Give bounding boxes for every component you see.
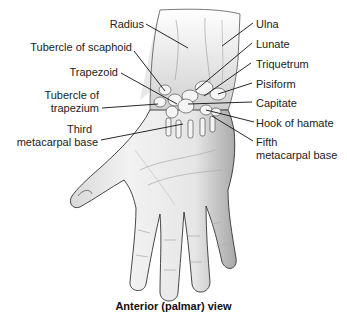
label-third-metacarpal-base-line1: Third (0, 123, 92, 135)
label-radius: Radius (78, 18, 144, 30)
label-hook-of-hamate: Hook of hamate (256, 117, 334, 129)
label-tubercle-of-trapezium-line2: trapezium (20, 102, 99, 114)
label-trapezoid: Trapezoid (40, 66, 118, 78)
label-lunate: Lunate (256, 38, 290, 50)
label-capitate: Capitate (256, 97, 297, 109)
label-tubercle-of-scaphoid: Tubercle of scaphoid (10, 41, 132, 53)
label-ulna: Ulna (256, 18, 279, 30)
label-pisiform: Pisiform (256, 78, 296, 90)
label-third-metacarpal-base-line2: metacarpal base (0, 136, 98, 148)
anatomy-figure: Radius Tubercle of scaphoid Trapezoid Tu… (0, 0, 347, 323)
label-triquetrum: Triquetrum (256, 58, 309, 70)
figure-caption: Anterior (palmar) view (0, 300, 347, 312)
label-fifth-metacarpal-base-line1: Fifth (256, 136, 277, 148)
label-fifth-metacarpal-base-line2: metacarpal base (256, 149, 337, 161)
label-tubercle-of-trapezium-line1: Tubercle of (20, 89, 99, 101)
